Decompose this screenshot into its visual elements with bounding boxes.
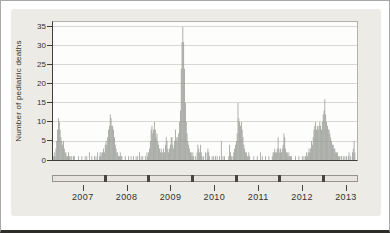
bar <box>67 156 68 160</box>
year-boundary-block <box>235 175 238 182</box>
bar <box>275 152 276 160</box>
bar <box>148 152 149 160</box>
bar <box>279 149 280 160</box>
bar <box>111 118 112 160</box>
bar <box>235 145 236 160</box>
bar <box>279 152 280 160</box>
bar <box>349 152 350 160</box>
bar <box>107 145 108 160</box>
midyear-tick <box>258 185 259 191</box>
bar <box>208 152 209 160</box>
bar <box>139 152 140 160</box>
bar <box>113 130 114 160</box>
bar <box>156 137 157 160</box>
bar <box>346 156 347 160</box>
bar <box>341 156 342 160</box>
bar <box>243 137 244 160</box>
bar <box>262 156 263 160</box>
bar <box>172 145 173 160</box>
bar <box>63 141 64 160</box>
year-label: 2007 <box>72 192 94 202</box>
year-label: 2013 <box>335 192 357 202</box>
bar <box>314 130 315 160</box>
bar <box>68 152 69 160</box>
bar <box>200 145 201 160</box>
midyear-tick <box>214 185 215 191</box>
bar <box>133 156 134 160</box>
bar <box>190 152 191 160</box>
bar <box>61 141 62 160</box>
screenshot-card: Number of pediatric deaths 0510152025303… <box>0 0 390 233</box>
bar <box>281 152 282 160</box>
bar <box>175 130 176 160</box>
bar <box>242 130 243 160</box>
bar <box>288 156 289 160</box>
bar <box>121 156 122 160</box>
bar <box>188 145 189 160</box>
bar <box>302 156 303 160</box>
bar <box>142 156 143 160</box>
bar <box>182 42 183 160</box>
bar <box>282 149 283 160</box>
bar <box>217 156 218 160</box>
bar <box>285 149 286 160</box>
bar <box>246 152 247 160</box>
bar <box>284 133 285 160</box>
bar <box>291 156 292 160</box>
midyear-tick <box>346 185 347 191</box>
bar <box>191 152 192 160</box>
year-label: 2008 <box>116 192 138 202</box>
y-tick-label: 35 <box>27 22 46 31</box>
bar <box>238 118 239 160</box>
bar <box>136 156 137 160</box>
bar <box>147 152 148 160</box>
bar <box>274 149 275 160</box>
bar <box>240 126 241 160</box>
plot-area <box>52 21 358 161</box>
bar <box>248 156 249 160</box>
bar <box>307 156 308 160</box>
bar <box>64 149 65 160</box>
bar <box>160 152 161 160</box>
bar <box>198 149 199 160</box>
bar <box>81 156 82 160</box>
bar <box>166 137 167 160</box>
y-tick-label: 25 <box>27 60 46 69</box>
bar <box>336 152 337 160</box>
bar <box>272 156 273 160</box>
year-labels: 2007200820092010201120122013 <box>52 192 358 204</box>
bar <box>289 152 290 160</box>
bar <box>85 156 86 160</box>
bar <box>305 156 306 160</box>
year-boundary-block <box>278 175 281 182</box>
bar <box>330 137 331 160</box>
bar <box>257 156 258 160</box>
bar <box>239 122 240 160</box>
bar <box>309 152 310 160</box>
bar <box>224 156 225 160</box>
year-label: 2010 <box>204 192 226 202</box>
bar <box>157 133 158 160</box>
bar <box>203 156 204 160</box>
bar <box>284 137 285 160</box>
bar <box>106 141 107 160</box>
bar <box>66 152 67 160</box>
bar <box>165 145 166 160</box>
bar <box>114 137 115 160</box>
bar <box>60 130 61 160</box>
bar <box>316 130 317 160</box>
bar <box>241 122 242 160</box>
bar <box>57 130 58 160</box>
bar <box>253 156 254 160</box>
bar <box>152 133 153 160</box>
bar <box>62 145 63 160</box>
bar <box>181 69 182 160</box>
bar <box>162 152 163 160</box>
bar <box>295 156 296 160</box>
bar <box>179 122 180 160</box>
bar <box>350 156 351 160</box>
bar <box>149 149 150 160</box>
bar <box>337 152 338 160</box>
bar <box>248 152 249 160</box>
bar <box>91 156 92 160</box>
